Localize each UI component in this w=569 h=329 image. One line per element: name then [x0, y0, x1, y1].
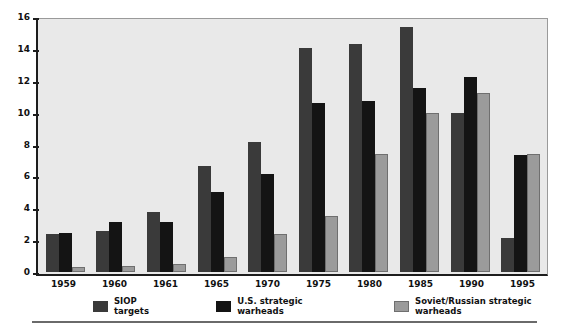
- y-tick-mark: [33, 177, 39, 179]
- plot-area: 0246810121416: [36, 18, 548, 276]
- legend-swatch-icon: [93, 301, 108, 312]
- bar-group: [141, 20, 192, 272]
- bar-group: [192, 20, 243, 272]
- y-tick-label: 6: [24, 171, 30, 182]
- y-tick-label: 2: [24, 235, 30, 246]
- bar-1970-series-2: [274, 234, 287, 272]
- x-axis-label: 1959: [38, 279, 89, 289]
- y-tick-mark: [33, 18, 39, 20]
- bar-group: [394, 20, 445, 272]
- bar-1985-series-1: [413, 88, 426, 272]
- x-axis-label: 1975: [293, 279, 344, 289]
- bar-1960-series-0: [96, 231, 109, 272]
- bar-group: [495, 20, 546, 272]
- x-axis-label: 1970: [242, 279, 293, 289]
- bar-1970-series-0: [248, 142, 261, 272]
- bar-1990-series-1: [464, 77, 477, 272]
- x-axis-label: 1960: [89, 279, 140, 289]
- x-axis-label: 1995: [497, 279, 548, 289]
- x-axis-label: 1961: [140, 279, 191, 289]
- bar-1961-series-1: [160, 222, 173, 272]
- bar-1995-series-1: [514, 155, 527, 272]
- legend-label: Soviet/Russian strategic warheads: [415, 296, 548, 316]
- bar-1995-series-0: [501, 238, 514, 272]
- bar-1975-series-0: [299, 48, 312, 272]
- y-tick-mark: [33, 241, 39, 243]
- y-tick-label: 8: [24, 140, 30, 151]
- x-axis: 1959196019611965197019751980198519901995: [38, 279, 548, 289]
- bar-1975-series-1: [312, 103, 325, 272]
- chart-figure: 0246810121416 19591960196119651970197519…: [0, 0, 569, 329]
- x-axis-label: 1965: [191, 279, 242, 289]
- y-tick-label: 0: [24, 267, 30, 278]
- y-tick-label: 10: [17, 108, 30, 119]
- bar-1965-series-1: [211, 192, 224, 272]
- y-tick-label: 4: [24, 203, 30, 214]
- bar-1985-series-0: [400, 27, 413, 272]
- bar-1980-series-0: [349, 44, 362, 272]
- bar-1965-series-2: [224, 257, 237, 272]
- bar-1990-series-2: [477, 93, 490, 272]
- bar-group: [91, 20, 142, 272]
- y-tick-mark: [33, 146, 39, 148]
- bar-1980-series-2: [375, 154, 388, 272]
- bar-1961-series-2: [173, 264, 186, 272]
- bar-group: [293, 20, 344, 272]
- bar-group: [242, 20, 293, 272]
- bar-1960-series-1: [109, 222, 122, 272]
- legend-label: U.S. strategic warheads: [237, 296, 328, 316]
- x-axis-label: 1990: [446, 279, 497, 289]
- bottom-divider: [32, 321, 537, 323]
- bar-group: [40, 20, 91, 272]
- y-tick-mark: [33, 114, 39, 116]
- bar-group: [344, 20, 395, 272]
- y-tick-label: 12: [17, 76, 30, 87]
- bar-groups: [40, 20, 546, 272]
- bar-1975-series-2: [325, 216, 338, 272]
- x-axis-label: 1980: [344, 279, 395, 289]
- legend-item: Soviet/Russian strategic warheads: [394, 296, 548, 316]
- legend-item: U.S. strategic warheads: [216, 296, 328, 316]
- y-tick-mark: [33, 209, 39, 211]
- bar-1961-series-0: [147, 212, 160, 272]
- y-tick-label: 16: [17, 12, 30, 23]
- bar-1985-series-2: [426, 113, 439, 272]
- y-tick-mark: [33, 82, 39, 84]
- x-axis-label: 1985: [395, 279, 446, 289]
- bar-1995-series-2: [527, 154, 540, 272]
- y-tick-label: 14: [17, 44, 30, 55]
- legend-item: SIOP targets: [93, 296, 160, 316]
- plot-wrapper: 0246810121416: [36, 18, 548, 276]
- legend-swatch-icon: [216, 301, 231, 312]
- bar-group: [445, 20, 496, 272]
- y-tick-mark: [33, 273, 39, 275]
- bar-1980-series-1: [362, 101, 375, 272]
- bar-1959-series-2: [72, 267, 85, 273]
- legend-swatch-icon: [394, 301, 409, 312]
- bar-1959-series-1: [59, 233, 72, 272]
- y-tick-mark: [33, 50, 39, 52]
- bar-1990-series-0: [451, 113, 464, 272]
- bar-1965-series-0: [198, 166, 211, 272]
- chart-legend: SIOP targetsU.S. strategic warheadsSovie…: [36, 296, 548, 316]
- legend-label: SIOP targets: [114, 296, 160, 316]
- bar-1960-series-2: [122, 266, 135, 272]
- bar-1959-series-0: [46, 234, 59, 272]
- bar-1970-series-1: [261, 174, 274, 272]
